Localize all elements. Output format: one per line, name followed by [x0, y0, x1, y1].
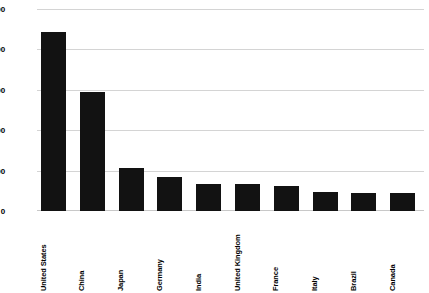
bar[interactable] — [41, 32, 66, 211]
bar[interactable] — [390, 193, 415, 211]
x-tick-label: United Kingdom — [238, 263, 248, 293]
x-tick-label: Italy — [315, 284, 325, 293]
x-tick-label: France — [276, 279, 286, 293]
bar[interactable] — [313, 192, 338, 211]
bar[interactable] — [80, 92, 105, 211]
x-tick-label-slot: France — [274, 211, 299, 291]
y-tick-label: 0 — [0, 206, 5, 215]
y-tick-label: 15,000 — [0, 85, 5, 94]
x-tick-label-slot: Italy — [313, 211, 338, 291]
bar-chart: 25,000 20,000 15,000 10,000 5,000 0 Unit… — [0, 0, 429, 293]
x-axis-labels: United StatesChinaJapanGermanyIndiaUnite… — [37, 211, 424, 293]
x-tick-label: India — [199, 282, 209, 293]
bar[interactable] — [196, 184, 221, 211]
x-tick-label-slot: Canada — [390, 211, 415, 291]
y-tick-label: 20,000 — [0, 45, 5, 54]
x-tick-label-slot: Brazil — [351, 211, 376, 291]
bars-layer — [37, 9, 424, 211]
bar[interactable] — [157, 177, 182, 211]
x-tick-label: Brazil — [354, 281, 364, 293]
x-tick-label-slot: India — [196, 211, 221, 291]
x-tick-label: Canada — [393, 278, 403, 293]
x-tick-label: Japan — [121, 280, 131, 293]
x-tick-label: China — [82, 281, 92, 293]
bar[interactable] — [351, 193, 376, 211]
bar[interactable] — [235, 184, 260, 211]
x-tick-label-slot: China — [80, 211, 105, 291]
bar[interactable] — [119, 168, 144, 211]
x-tick-label-slot: United States — [41, 211, 66, 291]
x-tick-label-slot: United Kingdom — [235, 211, 260, 291]
x-tick-label: United States — [44, 268, 54, 293]
x-tick-label-slot: Germany — [157, 211, 182, 291]
bar[interactable] — [274, 186, 299, 211]
y-tick-label: 25,000 — [0, 5, 5, 14]
x-tick-label: Germany — [160, 275, 170, 293]
y-tick-label: 5,000 — [0, 166, 5, 175]
x-tick-label-slot: Japan — [119, 211, 144, 291]
y-tick-label: 10,000 — [0, 126, 5, 135]
